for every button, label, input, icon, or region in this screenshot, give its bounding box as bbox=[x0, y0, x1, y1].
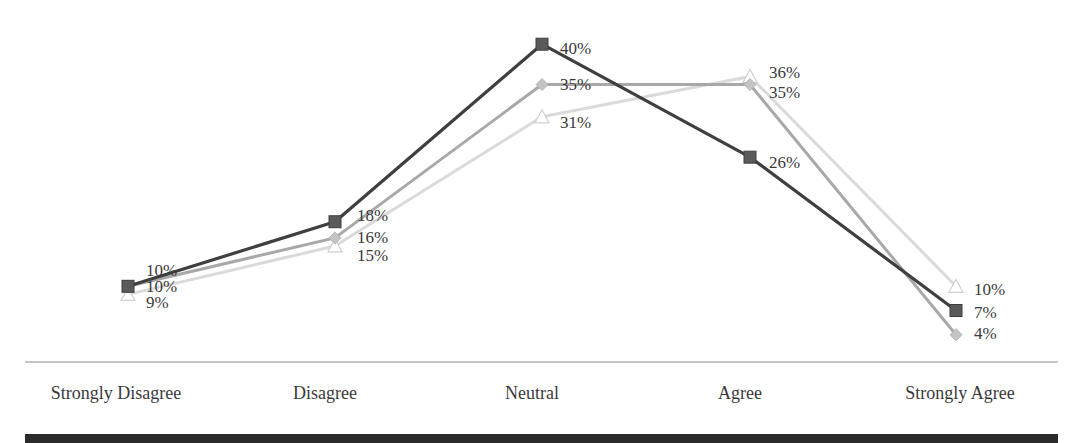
data-labels: 9%15%31%36%10%10%16%35%35%4%10%18%40%26%… bbox=[146, 39, 1005, 343]
data-label: 18% bbox=[357, 206, 388, 225]
square-marker-icon bbox=[329, 216, 341, 228]
line-chart: 9%15%31%36%10%10%16%35%35%4%10%18%40%26%… bbox=[0, 0, 1090, 443]
square-marker-icon bbox=[536, 38, 548, 50]
data-label: 15% bbox=[357, 246, 388, 265]
category-label: Agree bbox=[718, 383, 762, 403]
data-label: 31% bbox=[560, 113, 591, 132]
data-label: 10% bbox=[974, 280, 1005, 299]
data-label: 26% bbox=[769, 153, 800, 172]
data-label: 40% bbox=[560, 39, 591, 58]
square-marker-icon bbox=[950, 305, 962, 317]
category-label: Strongly Agree bbox=[905, 383, 1015, 403]
data-label: 35% bbox=[769, 83, 800, 102]
data-label: 35% bbox=[560, 75, 591, 94]
category-label: Strongly Disagree bbox=[51, 383, 181, 403]
bottom-border-bar bbox=[25, 434, 1058, 443]
data-label: 16% bbox=[357, 228, 388, 247]
square-marker-icon bbox=[744, 151, 756, 163]
data-label: 4% bbox=[974, 324, 997, 343]
data-label: 10% bbox=[146, 261, 177, 280]
data-label: 36% bbox=[769, 63, 800, 82]
category-label: Disagree bbox=[293, 383, 357, 403]
square-marker-icon bbox=[122, 280, 134, 292]
category-label: Neutral bbox=[505, 383, 559, 403]
category-axis-labels: Strongly DisagreeDisagreeNeutralAgreeStr… bbox=[51, 383, 1015, 403]
data-label: 7% bbox=[974, 303, 997, 322]
